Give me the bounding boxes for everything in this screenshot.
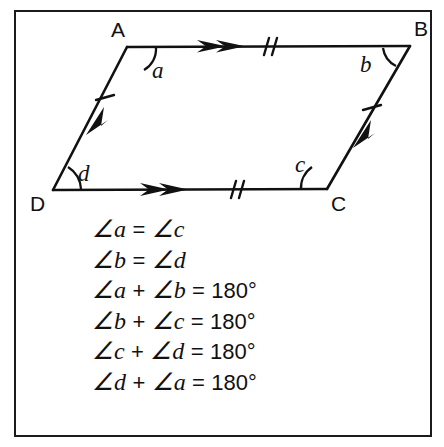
equation-part-value: 180°	[211, 370, 257, 395]
equation-eq-d-plus-a: ∠d + ∠a = 180°	[92, 367, 352, 398]
side-DA-congruence-tick	[96, 95, 114, 100]
tick-icon	[96, 95, 114, 100]
angle-label-c: c	[295, 152, 305, 177]
equation-part-value: 180°	[210, 309, 256, 334]
parallelogram-sides	[53, 46, 410, 190]
equations-list: ∠a = ∠c∠b = ∠d∠a + ∠b = 180°∠b + ∠c = 18…	[92, 214, 352, 397]
figure-panel: A B C D a b c d ∠a = ∠c∠b = ∠d∠a + ∠b = …	[0, 0, 444, 447]
angle-label-b: b	[360, 52, 372, 77]
equation-part-angle: ∠d	[152, 247, 186, 273]
equation-eq-b-eq-d: ∠b = ∠d	[92, 245, 352, 276]
equation-part-operator: =	[132, 248, 145, 273]
equation-part-angle: ∠d	[92, 369, 126, 395]
equation-part-angle: ∠c	[92, 338, 125, 364]
equation-part-angle: ∠a	[92, 216, 126, 242]
equation-part-operator: =	[192, 370, 205, 395]
equation-part-angle: ∠a	[92, 277, 126, 303]
vertex-label-C: C	[331, 192, 346, 215]
equation-part-angle: ∠d	[150, 338, 184, 364]
equation-part-value: 180°	[211, 278, 257, 303]
equation-part-operator: =	[191, 339, 204, 364]
equation-part-operator: +	[132, 370, 145, 395]
vertex-label-B: B	[414, 17, 428, 40]
equation-part-angle: ∠b	[92, 308, 126, 334]
equation-part-operator: +	[132, 278, 145, 303]
equation-part-value: 180°	[210, 339, 256, 364]
side-DA	[53, 47, 127, 190]
side-AB	[127, 46, 410, 47]
equation-part-angle: ∠b	[152, 277, 186, 303]
equation-eq-c-plus-d: ∠c + ∠d = 180°	[92, 336, 352, 367]
equation-part-operator: =	[192, 278, 205, 303]
side-CD	[53, 189, 327, 190]
vertex-label-A: A	[111, 18, 125, 41]
equation-eq-a-plus-b: ∠a + ∠b = 180°	[92, 275, 352, 306]
angle-label-d: d	[78, 161, 90, 186]
equation-part-angle: ∠b	[92, 247, 126, 273]
angle-arc-b	[383, 48, 396, 66]
equation-eq-a-eq-c: ∠a = ∠c	[92, 214, 352, 245]
equation-eq-b-plus-c: ∠b + ∠c = 180°	[92, 306, 352, 337]
equation-part-operator: =	[191, 309, 204, 334]
vertex-label-D: D	[30, 192, 45, 215]
equation-part-angle: ∠a	[152, 369, 186, 395]
equation-part-angle: ∠c	[152, 308, 185, 334]
angle-label-a: a	[152, 58, 164, 83]
equation-part-angle: ∠c	[152, 216, 185, 242]
equation-part-operator: =	[132, 217, 145, 242]
equation-part-operator: +	[132, 309, 145, 334]
equation-part-operator: +	[131, 339, 144, 364]
